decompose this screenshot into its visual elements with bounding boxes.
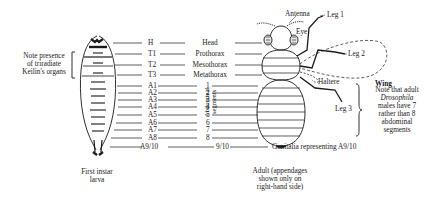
larva-caption-line: larva <box>72 176 122 184</box>
adult-thorax <box>262 50 300 80</box>
larva-denticle-belts <box>90 53 106 131</box>
segment-code: T1 <box>148 50 156 58</box>
haltere <box>300 72 319 82</box>
larva-caption: First instar larva <box>72 168 122 184</box>
leg1-label: Leg 1 <box>327 11 344 19</box>
segment-name: Head <box>185 39 235 47</box>
larva-note-line: Keilin's organs <box>14 68 74 76</box>
leg-2 <box>300 50 345 68</box>
segment-code: A9/10 <box>140 143 158 151</box>
adult-note-line: segments <box>362 126 432 134</box>
segment-leader-lines <box>110 43 268 147</box>
adult-caption: Adult (appendages shown only on right-ha… <box>240 167 320 191</box>
antenna-left <box>257 23 275 26</box>
segments-label: segments <box>210 90 218 114</box>
leg2-label: Leg 2 <box>348 50 365 58</box>
segment-code: T2 <box>148 61 156 69</box>
adult-caption-line: right-hand side) <box>240 183 320 191</box>
eye-label: Eye <box>296 28 307 36</box>
larva-mouth-hooks <box>91 39 103 42</box>
segment-name: Prothorax <box>185 50 235 58</box>
abdominal-number: 8 <box>206 134 210 142</box>
drosophila-segmentation-diagram: Note presence of triradiate Keilin's org… <box>0 0 433 203</box>
haltere-label: Haltere <box>318 78 339 86</box>
larva-posterior-spiracles <box>94 140 102 152</box>
leg3-label: Leg 3 <box>335 105 352 113</box>
wing <box>300 40 387 78</box>
segment-code: T3 <box>148 71 156 79</box>
adult-note: Note that adult Drosophila males have 7 … <box>362 86 432 134</box>
larva-note: Note presence of triradiate Keilin's org… <box>14 52 74 76</box>
segment-code: A8 <box>148 134 157 142</box>
larva-drawing <box>80 36 115 155</box>
adult-head <box>270 26 292 50</box>
abdominal-number: 9/10 <box>216 143 229 151</box>
segment-name: Mesothorax <box>185 61 235 69</box>
genitalia-label: Genitalia representing A9/10 <box>272 143 356 151</box>
segment-code: H <box>148 39 153 47</box>
antenna-label: Antenna <box>285 10 310 18</box>
larva-anal-pads <box>93 152 103 155</box>
segment-name: Metathorax <box>185 71 235 79</box>
